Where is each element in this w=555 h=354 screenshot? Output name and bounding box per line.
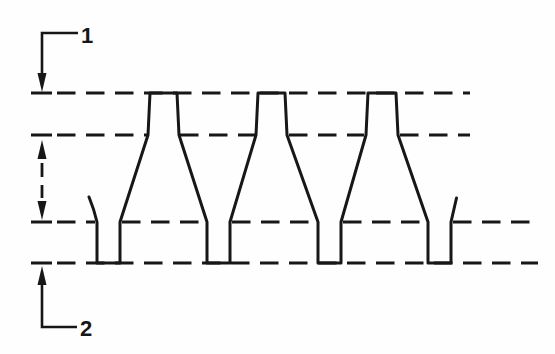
callout-1: 1 bbox=[38, 23, 94, 92]
callout-1-leader-line bbox=[42, 33, 78, 74]
callout-2: 2 bbox=[38, 266, 93, 341]
callout-2-label: 2 bbox=[80, 316, 92, 341]
callout-1-label: 1 bbox=[81, 23, 93, 48]
reference-lines bbox=[31, 93, 538, 263]
up-arrow-icon bbox=[38, 140, 47, 159]
vertical-span-arrow bbox=[38, 140, 47, 220]
callout-2-leader-line bbox=[42, 283, 77, 327]
up-arrow-icon bbox=[38, 266, 47, 285]
figure-canvas: 1 2 bbox=[0, 0, 555, 354]
down-arrow-icon bbox=[38, 201, 47, 220]
surface-profile-outline bbox=[89, 93, 457, 263]
down-arrow-icon bbox=[38, 73, 47, 92]
profile-cross-section-diagram: 1 2 bbox=[0, 0, 555, 354]
